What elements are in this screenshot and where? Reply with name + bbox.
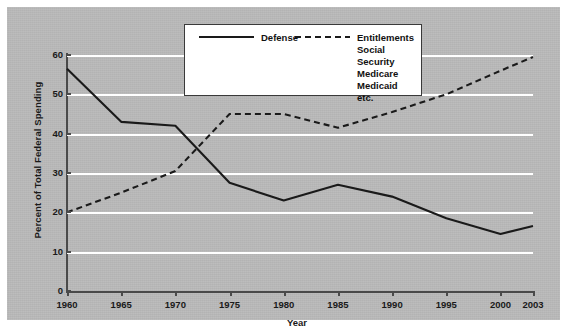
legend: Defense Entitlements Social SecurityMedi… (184, 24, 422, 96)
x-tick-mark (230, 291, 232, 296)
legend-label-defense: Defense (261, 32, 298, 43)
legend-sublabel-entitlements: Social SecurityMedicareMedicaidetc. (357, 44, 421, 104)
x-tick-label: 1960 (47, 299, 87, 310)
chart-figure: Percent of Total Federal Spending Year 0… (0, 0, 567, 334)
y-tick-label: 10 (37, 246, 63, 257)
y-tick-mark (66, 172, 71, 174)
x-tick-mark (446, 291, 448, 296)
x-tick-mark (175, 291, 177, 296)
y-tick-label: 0 (37, 285, 63, 296)
x-tick-label: 1975 (210, 299, 250, 310)
x-tick-label: 1995 (426, 299, 466, 310)
y-tick-mark (66, 211, 71, 213)
x-tick-label: 1985 (318, 299, 358, 310)
x-tick-label: 2003 (513, 299, 553, 310)
x-tick-mark (284, 291, 286, 296)
x-tick-mark (338, 291, 340, 296)
y-tick-mark (66, 133, 71, 135)
x-tick-mark (392, 291, 394, 296)
legend-sublabel-line: Medicare (357, 68, 421, 80)
chart-panel: Percent of Total Federal Spending Year 0… (7, 7, 560, 320)
x-tick-mark (121, 291, 123, 296)
x-tick-label: 1970 (155, 299, 195, 310)
y-tick-mark (66, 290, 71, 292)
x-tick-label: 1980 (264, 299, 304, 310)
y-tick-mark (66, 93, 71, 95)
y-tick-label: 40 (37, 128, 63, 139)
legend-sublabel-line: Medicaid (357, 80, 421, 92)
y-tick-mark (66, 54, 71, 56)
legend-swatch-entitlements-icon (295, 36, 350, 38)
legend-swatch-defense-icon (199, 36, 254, 38)
y-axis-tick-labels: 0102030405060 (29, 55, 63, 291)
x-tick-label: 1965 (101, 299, 141, 310)
y-tick-label: 50 (37, 88, 63, 99)
legend-sublabel-line: etc. (357, 92, 421, 104)
x-tick-mark (533, 291, 535, 296)
y-tick-label: 20 (37, 206, 63, 217)
y-tick-mark (66, 251, 71, 253)
x-axis-tick-labels: 1960196519701975198019851990199520002003 (67, 291, 533, 315)
y-tick-label: 30 (37, 167, 63, 178)
y-tick-label: 60 (37, 49, 63, 60)
x-tick-label: 1990 (372, 299, 412, 310)
x-tick-mark (500, 291, 502, 296)
legend-label-entitlements: Entitlements (357, 32, 414, 43)
legend-sublabel-line: Social Security (357, 44, 421, 68)
x-axis-title: Year (67, 317, 527, 328)
